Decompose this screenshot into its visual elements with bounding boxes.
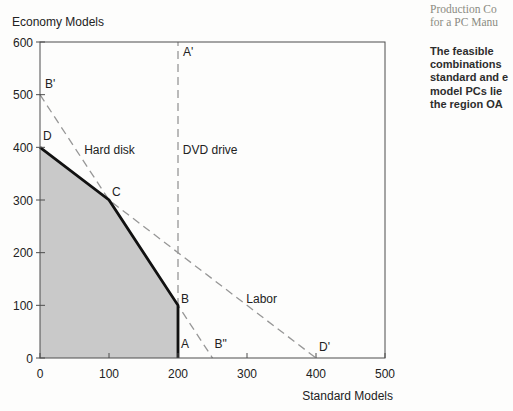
- x-tick-label: 400: [306, 367, 326, 381]
- figure-caption-text: The feasible combinations standard and e…: [430, 45, 513, 111]
- y-tick-label: 0: [26, 352, 33, 366]
- point-label: B: [181, 292, 189, 306]
- x-tick-label: 0: [37, 367, 44, 381]
- point-label: D: [43, 129, 52, 143]
- y-tick-label: 400: [13, 141, 33, 155]
- y-tick-label: 100: [13, 299, 33, 313]
- x-tick-label: 100: [99, 367, 119, 381]
- y-tick-label: 500: [13, 88, 33, 102]
- y-tick-label: 300: [13, 194, 33, 208]
- point-label: A': [183, 45, 193, 59]
- y-tick-label: 600: [13, 36, 33, 50]
- point-label: B": [215, 337, 227, 351]
- y-tick-label: 200: [13, 246, 33, 260]
- figure-caption-title: Production Co for a PC Manu: [430, 3, 513, 29]
- point-label: A: [181, 337, 189, 351]
- line-label: Labor: [246, 292, 277, 306]
- y-axis-title: Economy Models: [12, 15, 104, 29]
- line-label: DVD drive: [183, 143, 238, 157]
- line-label: Hard disk: [84, 143, 136, 157]
- point-label: C: [112, 185, 121, 199]
- feasible-region: [40, 147, 178, 358]
- x-tick-label: 300: [237, 367, 257, 381]
- x-axis-title: Standard Models: [302, 389, 393, 403]
- x-tick-label: 200: [168, 367, 188, 381]
- point-label: D': [319, 340, 330, 354]
- x-tick-label: 500: [375, 367, 395, 381]
- point-label: B': [45, 77, 55, 91]
